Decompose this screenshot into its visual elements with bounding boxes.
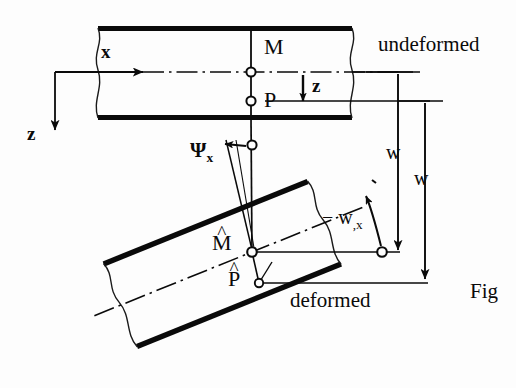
node-p-marker: [246, 96, 255, 105]
hat-accent-icon: ^: [217, 223, 226, 242]
psi-x-label: Ψx: [190, 140, 213, 165]
z-offset-group: [265, 75, 430, 101]
beam-deformation-diagram: [0, 0, 516, 388]
point-m-hat-label: ^M: [212, 232, 232, 254]
dim-w-lower-label: w: [414, 168, 428, 188]
node-m-hat-marker: [247, 247, 257, 257]
m-hat-glyph: ^M: [212, 232, 232, 254]
deformed-label: deformed: [290, 290, 370, 311]
undeformed-label: undeformed: [378, 34, 479, 55]
figure-canvas: x z M P z undeformed deformed Ψx ^M ^P −…: [0, 0, 516, 388]
slope-origin-marker: [377, 247, 387, 257]
p-hat-glyph: ^P: [228, 268, 240, 290]
psi-subscript: x: [206, 150, 213, 165]
z-axis-label: z: [27, 124, 35, 143]
slope-subscript: ,x: [353, 217, 363, 232]
z-offset-label: z: [312, 76, 320, 95]
undeformed-beam-break-left: [96, 28, 99, 118]
point-m-label: M: [264, 36, 284, 58]
point-p-hat-label: ^P: [228, 268, 240, 290]
node-m-marker: [246, 67, 255, 76]
node-p-hat-marker: [255, 279, 263, 287]
dimension-w-lower-group: [398, 101, 443, 279]
point-p-label: P: [264, 89, 276, 111]
slope-arc-arrow: [366, 196, 381, 246]
x-axis-label: x: [101, 42, 111, 61]
slope-base: − w: [322, 206, 353, 228]
slope-arc-tick: [372, 180, 376, 183]
slope-minus-w-x-label: − w,x: [322, 207, 363, 231]
figure-caption-fragment: Fig: [470, 281, 498, 302]
psi-symbol: Ψ: [190, 138, 206, 162]
slope-indicator-group: [366, 180, 387, 257]
psi-origin-marker: [247, 140, 256, 149]
undeformed-beam-group: [96, 28, 353, 118]
hat-accent-icon-2: ^: [230, 259, 239, 278]
dim-w-upper-label: w: [386, 142, 400, 162]
undeformed-beam-break-right: [350, 28, 353, 118]
psi-arc-arrow: [225, 144, 246, 146]
